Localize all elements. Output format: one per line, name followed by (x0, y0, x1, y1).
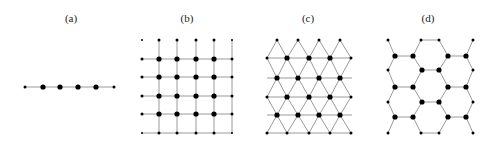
boundary-site (231, 95, 234, 98)
bond-line (340, 97, 351, 115)
bond-line (388, 117, 395, 133)
boundary-site (266, 57, 269, 60)
boundary-site (318, 39, 321, 42)
honeycomb-lattice-panel (387, 39, 475, 135)
lattice-site (337, 75, 342, 80)
bond-line (298, 40, 309, 58)
boundary-site (24, 86, 27, 89)
bond-line (287, 115, 298, 133)
bond-line (298, 97, 309, 115)
lattice-site (75, 84, 80, 89)
bond-line (298, 115, 309, 133)
bond-line (439, 102, 448, 117)
boundary-site (141, 58, 144, 61)
boundary-site (141, 95, 144, 98)
bond-line (439, 40, 448, 56)
lattice-site (410, 114, 415, 119)
panel-label-b: (b) (181, 12, 194, 25)
lattice-site (295, 112, 300, 117)
lattice-site (174, 93, 179, 98)
boundary-site (420, 39, 423, 42)
bond-line (277, 115, 287, 133)
bond-line (267, 115, 277, 133)
panel-label-a: (a) (65, 12, 78, 25)
boundary-site (472, 132, 475, 135)
bond-line (388, 40, 395, 56)
lattice-site (174, 111, 179, 116)
lattice-site (445, 84, 450, 89)
bond-line (340, 115, 351, 133)
bond-line (330, 97, 340, 115)
boundary-site (158, 132, 161, 135)
boundary-site (231, 76, 234, 79)
bond-line (413, 40, 421, 56)
bond-line (340, 58, 351, 78)
lattice-site (327, 55, 332, 60)
boundary-site (276, 39, 279, 42)
bond-line (277, 40, 287, 58)
bond-line (330, 58, 340, 78)
lattice-site (327, 94, 332, 99)
bond-line (413, 87, 422, 102)
bond-line (466, 70, 473, 87)
boundary-site (141, 113, 144, 116)
lattice-site (174, 74, 179, 79)
panel-label-c: (c) (302, 12, 315, 25)
bond-line (319, 97, 330, 115)
boundary-site (420, 132, 423, 135)
lattice-site (156, 93, 161, 98)
panel-label-d: (d) (422, 12, 435, 25)
boundary-site (231, 132, 233, 134)
boundary-site (387, 69, 390, 72)
bond-line (287, 40, 298, 58)
lattice-site (410, 53, 415, 58)
boundary-site (195, 132, 198, 135)
bond-line (267, 58, 277, 78)
boundary-site (297, 39, 300, 42)
lattice-site (463, 53, 468, 58)
boundary-site (438, 132, 441, 135)
triangular-lattice-panel (266, 39, 353, 135)
boundary-site (113, 86, 116, 89)
boundary-site (213, 132, 216, 135)
boundary-site (141, 76, 144, 79)
lattice-site (419, 99, 424, 104)
boundary-site (472, 39, 475, 42)
lattice-site (274, 75, 279, 80)
bond-line (309, 97, 319, 115)
boundary-site (350, 96, 353, 99)
boundary-site (308, 132, 311, 135)
bond-line (466, 117, 473, 133)
lattice-site (337, 112, 342, 117)
lattice-site (463, 114, 468, 119)
bond-line (287, 78, 298, 97)
boundary-site (350, 132, 353, 135)
boundary-site (266, 132, 269, 135)
bond-line (287, 97, 298, 115)
lattice-site (445, 53, 450, 58)
lattice-site (392, 84, 397, 89)
bond-line (267, 97, 277, 115)
boundary-site (472, 101, 475, 104)
boundary-site (141, 39, 143, 41)
lattice-site (211, 93, 216, 98)
bond-line (277, 97, 287, 115)
lattice-site (436, 67, 441, 72)
bond-line (439, 117, 448, 133)
lattice-site (306, 94, 311, 99)
boundary-site (387, 39, 390, 42)
bond-line (287, 58, 298, 78)
lattice-site (40, 84, 45, 89)
lattice-site (156, 56, 161, 61)
bond-line (340, 40, 351, 58)
bond-line (309, 115, 319, 133)
boundary-site (387, 132, 390, 135)
lattice-site (211, 56, 216, 61)
boundary-site (329, 132, 332, 135)
lattice-site (193, 93, 198, 98)
bond-line (330, 40, 340, 58)
chain-lattice-panel (24, 84, 116, 89)
bond-line (267, 40, 277, 58)
square-lattice-panel (141, 39, 234, 135)
boundary-site (176, 132, 179, 135)
